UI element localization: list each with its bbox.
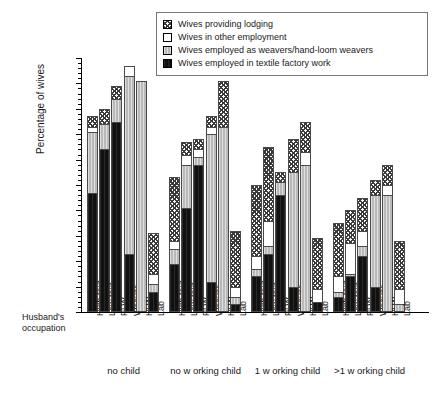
y-tick-minor — [78, 99, 81, 100]
bar-segment-weavers — [181, 165, 192, 208]
y-tick-minor — [78, 256, 81, 257]
x-axis-title: Husband'soccupation — [22, 312, 78, 334]
bar-segment-lodging — [148, 233, 159, 274]
y-tick-minor — [78, 165, 81, 166]
bar-segment-lodging — [169, 177, 180, 241]
y-tick-minor — [78, 200, 81, 201]
y-tick-minor — [78, 180, 81, 181]
bar-segment-other — [148, 274, 159, 284]
bar-segment-weavers — [111, 99, 122, 122]
bar-segment-weavers — [370, 195, 381, 286]
y-tick-minor — [78, 302, 81, 303]
y-tick-minor — [78, 251, 81, 252]
y-tick-minor — [78, 215, 81, 216]
bar-segment-lodging — [357, 198, 368, 231]
y-tick-major — [76, 58, 81, 59]
bar-segment-lodging — [370, 180, 381, 195]
y-tick-minor — [78, 276, 81, 277]
bar-segment-lodging — [206, 116, 217, 126]
bar-segment-weavers — [251, 269, 262, 277]
bar-segment-weavers — [206, 134, 217, 281]
bar-segment-weavers — [288, 172, 299, 286]
x-tick-label: Lab — [321, 301, 330, 316]
bar-segment-weavers — [169, 249, 180, 264]
y-tick-minor — [78, 246, 81, 247]
bar-segment-other — [345, 243, 356, 273]
legend-label: Wives providing lodging — [178, 20, 273, 29]
x-tick-label: Lab — [239, 301, 248, 316]
y-tick-minor — [78, 73, 81, 74]
y-tick-minor — [78, 104, 81, 105]
legend-item-factory[interactable]: Wives employed in textile factory work — [163, 57, 421, 69]
bar-segment-lodging — [218, 81, 229, 127]
y-tick-major — [76, 109, 81, 110]
y-tick-major — [76, 83, 81, 84]
y-tick-minor — [78, 88, 81, 89]
bar-segment-other — [181, 155, 192, 165]
y-tick-minor — [78, 149, 81, 150]
y-tick-minor — [78, 221, 81, 222]
legend-swatch-white-icon — [163, 33, 172, 42]
y-tick-minor — [78, 114, 81, 115]
legend-swatch-gray-icon — [163, 46, 172, 55]
y-tick-minor — [78, 94, 81, 95]
x-axis-title-line: Husband's — [22, 312, 78, 323]
bar-segment-lodging — [394, 241, 405, 289]
y-tick-minor — [78, 155, 81, 156]
bar-segment-other — [87, 127, 98, 132]
y-tick-minor — [78, 231, 81, 232]
y-tick-major — [76, 134, 81, 135]
bar-segment-lodging — [111, 86, 122, 99]
legend-item-other[interactable]: Wives in other employment — [163, 31, 421, 43]
x-tick-label: Lab — [157, 301, 166, 316]
x-axis-title-line: occupation — [22, 323, 78, 334]
bar-segment-weavers — [382, 195, 393, 312]
bar-segment-weavers — [124, 76, 135, 254]
y-tick-minor — [78, 63, 81, 64]
y-tick-minor — [78, 170, 81, 171]
legend-item-weavers[interactable]: Wives employed as weavers/hand-loom weav… — [163, 44, 421, 56]
y-tick-minor — [78, 282, 81, 283]
y-tick-major — [76, 236, 81, 237]
legend-swatch-hatch-icon — [163, 20, 172, 29]
y-tick-minor — [78, 195, 81, 196]
bar-segment-weavers — [99, 124, 110, 149]
bar-segment-lodging — [275, 172, 286, 182]
bar-segment-weavers — [263, 246, 274, 254]
bar-segment-weavers — [87, 132, 98, 193]
y-tick-major — [76, 185, 81, 186]
bar-segment-lodging — [382, 165, 393, 185]
y-axis-label: Percentage of wives — [35, 64, 46, 154]
legend-label: Wives employed as weavers/hand-loom weav… — [178, 46, 373, 55]
y-tick-minor — [78, 292, 81, 293]
y-tick-minor — [78, 129, 81, 130]
legend-label: Wives employed in textile factory work — [178, 59, 331, 68]
x-tick-label: Lab — [403, 301, 412, 316]
y-tick-major — [76, 160, 81, 161]
bar-segment-lodging — [181, 142, 192, 155]
plot-area: Percentage of wives 01020304050607080901… — [81, 58, 429, 312]
bar-segment-weavers — [275, 182, 286, 195]
bar-segment-lodging — [345, 210, 356, 243]
bar-segment-weavers — [357, 246, 368, 256]
bar-segment-other — [251, 256, 262, 269]
bar-segment-other — [169, 241, 180, 249]
bar-segment-other — [230, 287, 241, 297]
bar-segment-weavers — [148, 284, 159, 292]
bar-segment-other — [206, 127, 217, 135]
bar-segment-factory — [193, 165, 204, 312]
legend-label: Wives in other employment — [178, 33, 287, 42]
bar-segment-lodging — [333, 223, 344, 276]
y-tick-minor — [78, 68, 81, 69]
bar-segment-other — [312, 289, 323, 302]
y-tick-minor — [78, 78, 81, 79]
bar-segment-other — [382, 185, 393, 195]
chart-page: Wives providing lodgingWives in other em… — [0, 0, 443, 402]
chart-legend: Wives providing lodgingWives in other em… — [156, 12, 428, 76]
y-tick-minor — [78, 175, 81, 176]
bar-segment-lodging — [193, 139, 204, 149]
y-axis-line — [81, 58, 82, 312]
y-tick-minor — [78, 205, 81, 206]
legend-item-lodging[interactable]: Wives providing lodging — [163, 18, 421, 30]
y-tick-minor — [78, 124, 81, 125]
